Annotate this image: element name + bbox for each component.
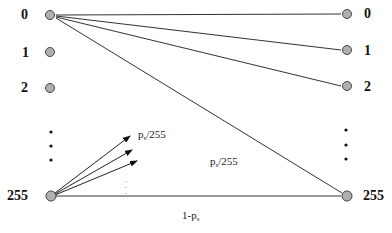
left-node-255	[46, 191, 56, 201]
edge-0-to-2	[56, 17, 341, 86]
self-prob-label: 1-ps	[182, 209, 199, 225]
arrow-3	[55, 161, 137, 195]
left-label-2: 2	[21, 81, 28, 95]
right-label-2: 2	[364, 80, 371, 94]
right-node-0	[343, 10, 352, 19]
right-label-1: 1	[364, 44, 371, 58]
left-node-0	[46, 11, 55, 20]
right-nodes	[342, 10, 352, 202]
right-node-255	[342, 191, 352, 201]
left-label-1: 1	[22, 46, 29, 60]
fan-out-arrows	[55, 136, 137, 195]
ellipsis-left	[49, 130, 52, 161]
right-label-255: 255	[363, 189, 384, 203]
left-label-0: 0	[21, 8, 28, 22]
diagonal-prob-label: ps/255	[210, 155, 238, 171]
left-label-255: 255	[7, 189, 28, 203]
edge-0-to-0	[56, 14, 341, 15]
transition-diagram	[0, 0, 392, 233]
right-node-1	[343, 46, 352, 55]
left-node-1	[46, 48, 55, 57]
fan-out-prob-label: ps/255	[138, 128, 166, 144]
left-node-2	[46, 84, 55, 93]
edge-0-to-1	[56, 16, 341, 50]
left-nodes	[46, 11, 57, 202]
right-label-0: 0	[364, 7, 371, 21]
arrow-1	[55, 136, 130, 193]
right-node-2	[343, 82, 352, 91]
edges-from-0	[56, 14, 342, 193]
arrow-2	[55, 150, 132, 194]
edge-0-to-255	[56, 18, 342, 193]
ellipsis-right	[344, 128, 347, 160]
